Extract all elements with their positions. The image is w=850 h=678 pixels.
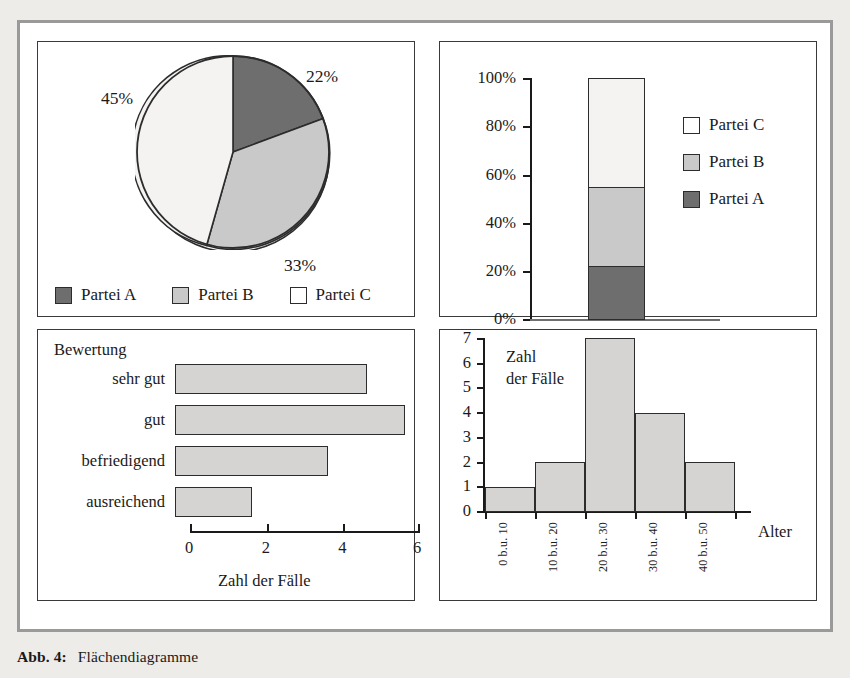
hbar-category-label-sehr-gut: sehr gut [38, 369, 175, 389]
pie-label-partei-b: 33% [284, 255, 316, 276]
hbar-tick-4 [343, 524, 345, 532]
hist-ylabel-0: 0 [453, 501, 471, 521]
stacked-ylabel-40: 40% [454, 213, 516, 233]
hbar-row-ausreichend: ausreichend [38, 486, 252, 518]
hbar-row-befriedigend: befriedigend [38, 445, 328, 477]
hist-tick-0 [477, 511, 484, 513]
hist-tick-7 [477, 338, 484, 340]
hist-xtick-20 [585, 512, 587, 519]
stacked-bar [588, 78, 645, 320]
hist-bar-40-50 [685, 462, 735, 512]
figure-frame: 22% 33% 45% Partei A Partei B Partei C [17, 20, 833, 632]
stacked-tick-80 [523, 126, 530, 128]
stacked-legend-label-partei-c: Partei C [709, 115, 764, 135]
histogram-panel: 7 6 5 4 3 2 1 0 [439, 329, 817, 601]
hist-y-axis-title-line2: der Fälle [506, 368, 564, 390]
hbar-x-axis [190, 531, 420, 533]
swatch-icon-partei-c [683, 117, 700, 134]
pie-label-partei-a: 22% [306, 66, 338, 87]
stacked-ylabel-100: 100% [454, 68, 516, 88]
hbar-x-axis-title: Zahl der Fälle [218, 571, 311, 591]
hist-ylabel-4: 4 [453, 402, 471, 422]
hbar-row-sehr-gut: sehr gut [38, 363, 367, 395]
hist-ylabel-6: 6 [453, 353, 471, 373]
stacked-tick-40 [523, 223, 530, 225]
swatch-icon-partei-a [683, 191, 700, 208]
hist-bar-10-20 [535, 462, 585, 512]
hbar-tick-2 [267, 524, 269, 532]
figure-caption-label: Abb. 4: [17, 648, 67, 665]
hist-tick-4 [477, 412, 484, 414]
hist-bar-30-40 [635, 413, 685, 512]
stacked-legend-item-partei-a: Partei A [683, 189, 764, 209]
hist-y-axis-title: Zahl der Fälle [506, 346, 564, 390]
stacked-tick-100 [523, 78, 530, 80]
hist-xtick-40 [685, 512, 687, 519]
pie-legend-label-partei-b: Partei B [198, 285, 253, 305]
pie-legend-label-partei-a: Partei A [81, 285, 136, 305]
hist-tick-5 [477, 387, 484, 389]
figure-caption: Abb. 4:Flächendiagramme [17, 648, 198, 666]
stacked-legend-label-partei-a: Partei A [709, 189, 764, 209]
hbar-category-label-gut: gut [38, 410, 175, 430]
hist-xlabel-0-10: 0 b.u. 10 [496, 522, 511, 566]
pie-chart-graphic [135, 54, 331, 250]
figure-caption-text: Flächendiagramme [78, 648, 198, 665]
stacked-tick-0 [523, 319, 530, 321]
hist-ylabel-1: 1 [453, 476, 471, 496]
hbar-xlabel-0: 0 [185, 538, 193, 558]
hbar-xlabel-6: 6 [413, 538, 421, 558]
stacked-tick-20 [523, 271, 530, 273]
figure-page: 22% 33% 45% Partei A Partei B Partei C [0, 0, 850, 678]
hbar-category-label-ausreichend: ausreichend [38, 492, 175, 512]
stacked-ylabel-60: 60% [454, 165, 516, 185]
stacked-legend: Partei C Partei B Partei A [683, 115, 764, 226]
hist-bar-0-10 [485, 487, 535, 512]
hist-bar-20-30 [585, 338, 635, 512]
hist-xtick-10 [535, 512, 537, 519]
stacked-y-axis [530, 78, 532, 320]
pie-legend-label-partei-c: Partei C [316, 285, 371, 305]
hbar-bar-befriedigend [175, 446, 328, 476]
stacked-segment-partei-c [589, 79, 644, 187]
swatch-icon-partei-b [683, 154, 700, 171]
hist-xlabel-40-50: 40 b.u. 50 [696, 522, 711, 572]
hist-ylabel-3: 3 [453, 427, 471, 447]
stacked-legend-item-partei-c: Partei C [683, 115, 764, 135]
stacked-bar-panel: 100% 80% 60% 40% 20% 0% Partei C [439, 41, 817, 317]
stacked-legend-item-partei-b: Partei B [683, 152, 764, 172]
hbar-bar-gut [175, 405, 405, 435]
hist-xlabel-30-40: 30 b.u. 40 [646, 522, 661, 572]
hbar-bar-sehr-gut [175, 364, 367, 394]
hist-y-axis-title-line1: Zahl [506, 346, 564, 368]
pie-legend-item-partei-c: Partei C [290, 285, 371, 305]
hist-xtick-30 [635, 512, 637, 519]
horizontal-bar-panel: Bewertung sehr gut gut befriedigend ausr… [37, 329, 415, 601]
stacked-ylabel-20: 20% [454, 261, 516, 281]
pie-legend-item-partei-a: Partei A [55, 285, 136, 305]
stacked-ylabel-80: 80% [454, 116, 516, 136]
stacked-ylabel-0: 0% [454, 309, 516, 329]
hist-tick-1 [477, 486, 484, 488]
swatch-icon-partei-b [172, 287, 189, 304]
stacked-tick-60 [523, 175, 530, 177]
hbar-xlabel-4: 4 [338, 538, 346, 558]
hist-xlabel-10-20: 10 b.u. 20 [546, 522, 561, 572]
swatch-icon-partei-c [290, 287, 307, 304]
hist-ylabel-7: 7 [453, 328, 471, 348]
hbar-tick-6 [418, 524, 420, 532]
hbar-category-label-befriedigend: befriedigend [38, 451, 175, 471]
hist-xtick-0 [485, 512, 487, 519]
pie-chart-panel: 22% 33% 45% Partei A Partei B Partei C [37, 41, 415, 317]
hbar-category-axis-title: Bewertung [54, 340, 126, 360]
hist-tick-6 [477, 363, 484, 365]
hbar-xlabel-2: 2 [262, 538, 270, 558]
hist-tick-2 [477, 462, 484, 464]
stacked-segment-partei-b [589, 187, 644, 266]
hbar-row-gut: gut [38, 404, 405, 436]
swatch-icon-partei-a [55, 287, 72, 304]
hist-ylabel-5: 5 [453, 377, 471, 397]
hist-xtick-50 [735, 512, 737, 519]
hbar-bar-ausreichend [175, 487, 252, 517]
pie-legend: Partei A Partei B Partei C [55, 285, 399, 305]
